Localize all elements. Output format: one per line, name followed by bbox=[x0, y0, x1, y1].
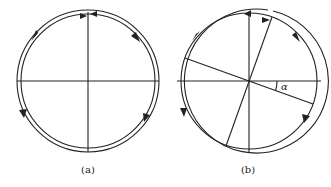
arrow-icon bbox=[262, 17, 270, 23]
panel-a bbox=[17, 10, 159, 152]
arrow-icon bbox=[19, 109, 27, 118]
panel-a-arrows bbox=[19, 11, 150, 122]
angle-alpha-label: α bbox=[281, 81, 288, 92]
arrow-icon bbox=[192, 31, 200, 41]
arrow-icon bbox=[180, 108, 187, 117]
arrow-icon bbox=[292, 32, 300, 42]
diagram-canvas: α bbox=[0, 0, 331, 187]
panel-b bbox=[177, 9, 328, 153]
caption-a: (a) bbox=[68, 164, 108, 175]
caption-b: (b) bbox=[228, 164, 268, 175]
arrow-icon bbox=[244, 10, 251, 17]
panel-b-angle-arc bbox=[276, 81, 278, 91]
arrow-icon bbox=[90, 11, 97, 17]
